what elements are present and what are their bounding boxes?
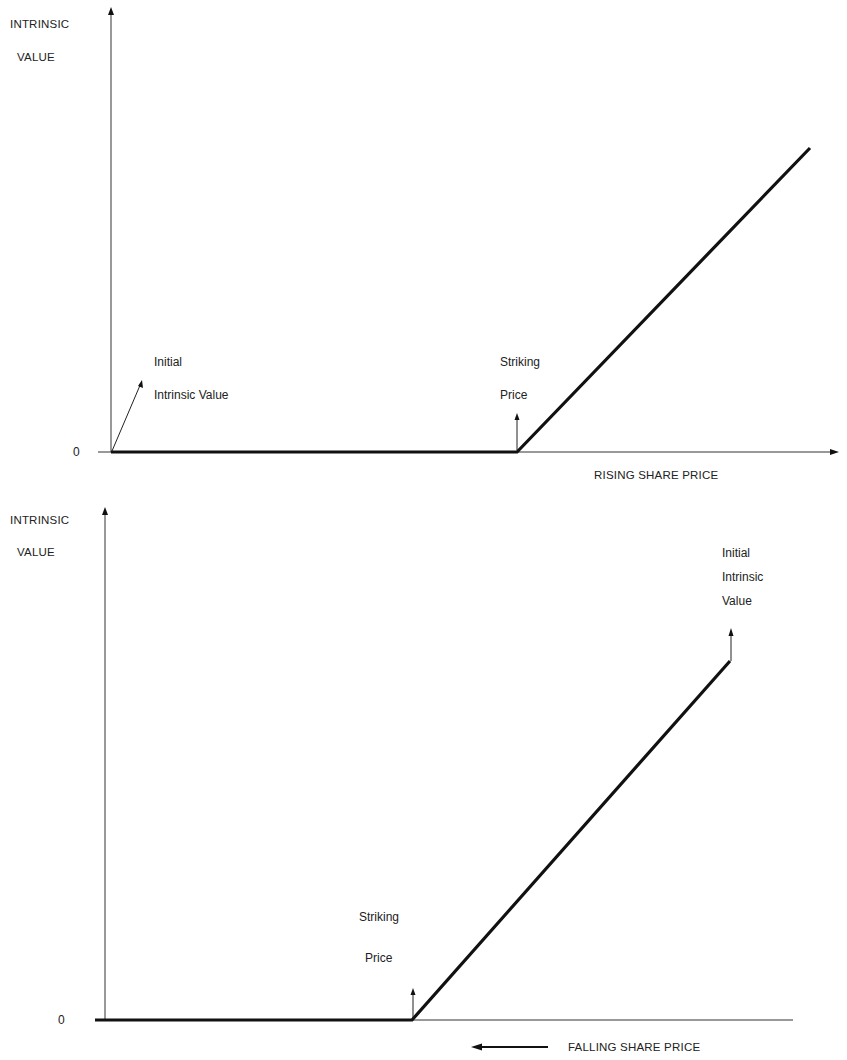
falling-direction-arrowhead-icon	[471, 1044, 482, 1051]
bottom-x-axis-label: FALLING SHARE PRICE	[568, 1040, 700, 1054]
bottom-strike-label-line2: Price	[365, 951, 392, 965]
bottom-strike-label-line1: Striking	[359, 910, 399, 924]
bottom-initial-label-line3: Value	[722, 594, 752, 608]
bottom-initial-label-line2: Intrinsic	[722, 570, 763, 584]
bottom-y-axis-label-line2: VALUE	[17, 545, 55, 559]
bottom-diagram-graphic	[0, 0, 847, 1060]
bottom-strike-arrowhead-icon	[411, 988, 416, 995]
bottom-initial-value-arrowhead-icon	[729, 628, 734, 636]
bottom-y-axis-arrowhead-icon	[102, 507, 108, 515]
bottom-payoff-line	[95, 661, 730, 1020]
bottom-initial-label-line1: Initial	[722, 546, 750, 560]
bottom-y-axis-label-line1: INTRINSIC	[10, 513, 69, 527]
bottom-zero-label: 0	[58, 1013, 65, 1027]
